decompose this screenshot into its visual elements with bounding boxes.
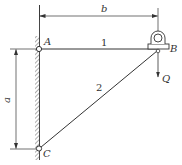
dimension-b-label: b bbox=[101, 3, 107, 14]
member-2-label: 2 bbox=[96, 82, 102, 93]
joint-B-icon bbox=[156, 49, 160, 53]
wall-support bbox=[35, 5, 40, 160]
member-1-label: 1 bbox=[101, 37, 107, 48]
dimension-b: b bbox=[40, 3, 159, 32]
member-1: 1 bbox=[41, 37, 158, 49]
dimension-a: a bbox=[1, 49, 36, 149]
point-B-label: B bbox=[169, 43, 177, 54]
joint-A-icon bbox=[36, 46, 41, 51]
load-Q: Q bbox=[158, 53, 170, 84]
pulley-B bbox=[148, 31, 169, 49]
truss-diagram: b a 1 2 Q A B C bbox=[0, 0, 182, 165]
joint-C-icon bbox=[36, 146, 41, 151]
load-Q-label: Q bbox=[162, 73, 170, 84]
dimension-a-label: a bbox=[1, 97, 12, 103]
point-A-label: A bbox=[43, 36, 51, 47]
point-C-label: C bbox=[43, 148, 51, 159]
member-2: 2 bbox=[41, 51, 158, 148]
